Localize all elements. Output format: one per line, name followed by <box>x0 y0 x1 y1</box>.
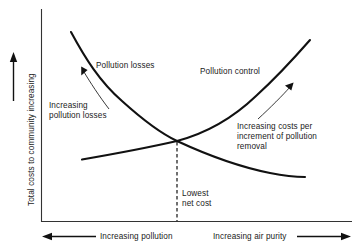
pollution-losses-label: Pollution losses <box>96 61 155 71</box>
lowest-net-cost-label-line1: Lowest <box>182 189 209 199</box>
pollution-cost-tradeoff-figure: Total costs to community increasing Poll… <box>0 0 359 251</box>
increasing-costs-label-line3: removal <box>237 142 267 152</box>
lowest-net-cost-label-line2: net cost <box>182 199 211 209</box>
increasing-pollution-losses-label-line2: pollution losses <box>49 111 107 121</box>
x-axis-right-label: Increasing air purity <box>213 232 287 242</box>
increasing-costs-label-line1: Increasing costs per <box>237 122 312 132</box>
y-axis-label: Total costs to community increasing <box>27 73 36 206</box>
increasing-pollution-axis-arrow <box>42 233 96 240</box>
pollution-control-label: Pollution control <box>200 67 260 77</box>
increasing-air-purity-axis-arrow <box>297 233 351 240</box>
increasing-pollution-losses-label-line1: Increasing <box>49 101 88 111</box>
y-axis-direction-arrow <box>10 52 17 101</box>
increasing-costs-label-line2: increment of pollution <box>237 132 317 142</box>
x-axis-left-label: Increasing pollution <box>100 232 173 242</box>
